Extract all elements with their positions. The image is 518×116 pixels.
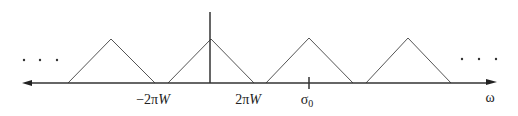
spectrum-diagram: −2πW 2πW σ0 ω: [0, 0, 518, 116]
left-arrowhead-icon: [22, 80, 32, 86]
tick-label-pos-2piW: 2πW: [235, 92, 262, 107]
triangle-replica-2: [168, 39, 254, 83]
sigma0-label: σ0: [301, 92, 314, 109]
ellipsis-left: [23, 59, 58, 61]
tick-label-neg-2piW: −2πW: [136, 92, 171, 107]
frequency-axis: [22, 79, 497, 86]
right-arrowhead-icon: [486, 79, 497, 85]
triangle-replica-1: [68, 39, 155, 83]
ellipsis-right: [461, 58, 497, 60]
triangle-replica-3: [266, 38, 353, 83]
triangle-replica-4: [366, 38, 451, 83]
spectrum-replicas: [68, 38, 451, 83]
axis-label-omega: ω: [485, 90, 494, 105]
